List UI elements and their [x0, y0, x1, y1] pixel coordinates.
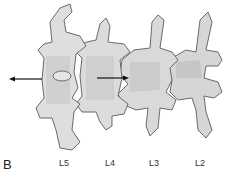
label-l4: L4: [105, 159, 115, 168]
label-l5: L5: [59, 159, 69, 168]
vertebrae-diagram: B L5 L4 L3 L2: [0, 0, 228, 173]
vertebra-l5: [36, 4, 86, 150]
vertebra-l4: [74, 18, 130, 130]
label-l2: L2: [195, 159, 205, 168]
left-arrow: [9, 77, 42, 82]
vertebra-l2: [168, 12, 222, 138]
label-l3: L3: [149, 159, 159, 168]
vertebra-l3: [118, 15, 178, 136]
vertebrae-illustration: [0, 0, 228, 173]
panel-label: B: [3, 157, 12, 172]
